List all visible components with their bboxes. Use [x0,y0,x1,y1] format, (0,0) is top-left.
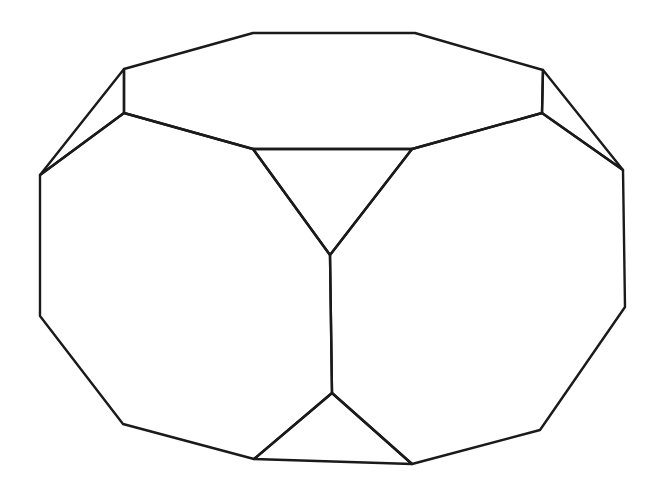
left-octagon-face [40,113,332,459]
top-triangle-face [253,149,412,255]
right-octagon-face [330,113,625,464]
polyhedron-diagram [0,0,660,494]
bottom-triangle-face [254,393,412,464]
right-small-face [542,70,623,170]
